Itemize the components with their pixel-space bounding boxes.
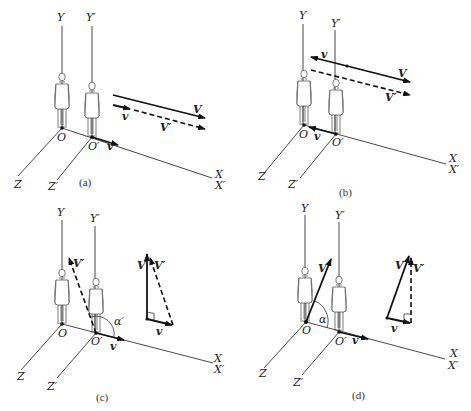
label-y-prime: Y′ (90, 212, 100, 225)
label-z-prime: Z′ (46, 380, 58, 393)
label-V-prime: V′ (385, 91, 397, 104)
label-y: Y (299, 9, 308, 22)
panel-c: Y Y′ O O′ v X X′ Z Z′ V′ α′ V V′ v (c) (16, 206, 225, 404)
v-component-arrow (311, 57, 347, 66)
origin-o (60, 322, 64, 326)
label-x-prime: X′ (213, 363, 225, 376)
z-axis (21, 324, 62, 370)
label-y: Y (301, 202, 310, 215)
caption-b: (b) (339, 186, 352, 199)
triangle-label-V: V (395, 259, 405, 272)
v-component-arrow (113, 105, 130, 109)
observer-o-prime (89, 278, 104, 332)
z-prime-axis (302, 332, 339, 375)
right-angle-marker (404, 314, 411, 322)
label-V-vec: V (318, 262, 328, 275)
label-x-prime: X′ (447, 359, 459, 372)
label-z-prime: Z′ (292, 376, 304, 389)
z-axis (264, 322, 306, 368)
caption-d: (d) (352, 389, 365, 402)
triangle-label-v: v (391, 322, 398, 335)
triangle-vertex (145, 317, 148, 320)
label-x-prime: X′ (448, 163, 460, 176)
label-o-prime: O′ (91, 335, 103, 348)
x-axis (62, 324, 213, 363)
label-x-prime: X′ (214, 179, 226, 192)
label-o-prime: O′ (335, 335, 347, 348)
label-y-prime: Y′ (335, 209, 345, 222)
triangle-label-V-prime: V′ (154, 259, 166, 272)
triangle-label-V: V (137, 259, 147, 272)
panel-b: Y Y′ O O′ v X X′ Z Z′ V V′ v (b) (257, 9, 460, 199)
label-y: Y (57, 11, 66, 24)
label-o: O (299, 128, 308, 141)
label-z: Z (13, 178, 22, 191)
z-axis (18, 128, 62, 176)
label-V: V (398, 67, 408, 80)
label-o-prime: O′ (332, 136, 344, 149)
label-z: Z (16, 370, 25, 383)
x-axis (62, 128, 212, 178)
observer-o-prime (329, 79, 344, 133)
label-v-axis: v (314, 130, 321, 143)
label-o: O (57, 131, 66, 144)
label-o: O (58, 327, 67, 340)
label-V-prime: V′ (160, 121, 172, 134)
observer-o (297, 70, 312, 124)
label-o: O (302, 324, 311, 337)
relative-velocity-diagram: Y Y′ O O′ v X X′ Z Z′ V V′ v (a) Y Y′ O … (0, 0, 471, 411)
origin-o (302, 123, 306, 127)
label-z: Z (257, 170, 266, 183)
panel-a: Y Y′ O O′ v X X′ Z Z′ V V′ v (a) (13, 11, 226, 193)
label-v-axis: v (352, 334, 359, 347)
label-y: Y (57, 206, 66, 219)
label-v-axis: v (107, 140, 114, 153)
label-z: Z (258, 367, 267, 380)
label-y-prime: Y′ (331, 17, 341, 30)
label-v-axis: v (110, 340, 117, 353)
vector-junction (345, 64, 348, 67)
label-v-vec: v (321, 48, 328, 61)
label-z-prime: Z′ (47, 180, 59, 193)
triangle-label-v: v (156, 325, 163, 338)
triangle-vertex (385, 316, 388, 319)
label-z-prime: Z′ (287, 178, 299, 191)
origin-o (60, 126, 64, 130)
caption-c: (c) (96, 391, 109, 404)
label-y-prime: Y′ (86, 11, 96, 24)
label-alpha: α (319, 313, 327, 326)
label-V-prime-vec: V′ (73, 257, 85, 270)
triangle-label-V-prime: V′ (413, 262, 425, 275)
label-alpha-prime: α′ (114, 315, 124, 328)
label-V: V (193, 103, 203, 116)
caption-a: (a) (79, 176, 92, 189)
label-v-vec: v (122, 110, 129, 123)
label-o-prime: O′ (88, 140, 100, 153)
panel-d: Y Y′ O O′ v X X′ Z Z′ V α V V′ v (d) (258, 202, 459, 402)
